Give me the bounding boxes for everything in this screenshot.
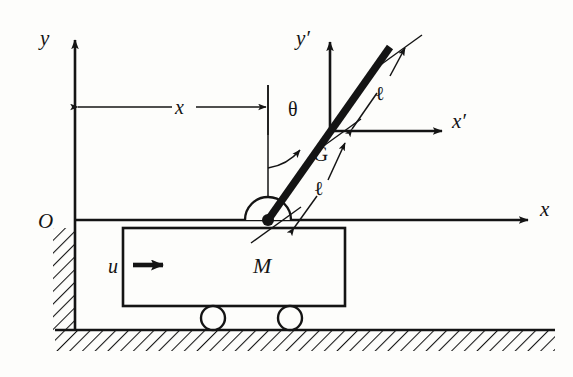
lower-dim-arrow-up (328, 143, 345, 180)
body-axes: y′ x′ (294, 26, 466, 133)
lower-half-length-label: ℓ (314, 177, 324, 199)
pivot-point (262, 214, 274, 226)
theta-arc-arrow (268, 150, 300, 168)
wall-hatching (53, 228, 74, 331)
pendulum (262, 47, 390, 226)
figure-root: y x O x y′ x′ θ M (0, 0, 573, 377)
wall-support (53, 228, 74, 331)
cart-wheel-left (201, 306, 225, 330)
x-axis-label: x (539, 197, 550, 221)
cart-wheel-right (278, 306, 302, 330)
y-prime-axis-label: y′ (294, 26, 310, 50)
upper-half-length-label: ℓ (375, 82, 385, 104)
centre-of-mass-label: G (313, 142, 328, 166)
x-displacement-dimension: x (78, 85, 268, 135)
centre-of-mass: G (313, 142, 328, 166)
u-force-label: u (108, 255, 118, 277)
inverted-pendulum-diagram: y x O x y′ x′ θ M (0, 0, 573, 377)
cart: M (123, 228, 345, 330)
origin-label: O (38, 209, 53, 233)
ground-support (55, 330, 555, 351)
theta-label: θ (288, 98, 298, 120)
ground-hatching (55, 331, 555, 351)
y-axis-label: y (38, 26, 50, 50)
lower-dim-arrow-down (294, 196, 317, 228)
x-displacement-label: x (174, 96, 184, 118)
tick-at-rod-tip (372, 35, 422, 71)
x-prime-axis-label: x′ (451, 109, 466, 133)
cart-mass-label: M (252, 253, 273, 278)
